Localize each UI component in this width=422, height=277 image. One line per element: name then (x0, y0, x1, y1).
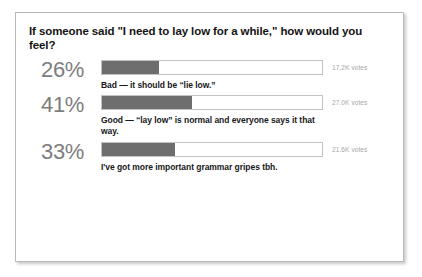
poll-option[interactable]: 26% 17.2K votes Bad — it should be “lie … (29, 60, 390, 91)
poll-option[interactable]: 41% 27.0K votes Good — “lay low” is norm… (29, 95, 390, 137)
option-percent: 26% (29, 60, 101, 80)
bar-row: 17.2K votes (101, 60, 390, 75)
bar-fill (102, 61, 159, 74)
option-label: Bad — it should be “lie low.” (101, 80, 333, 91)
option-body: 21.6K votes I've got more important gram… (101, 142, 390, 173)
option-label: I've got more important grammar gripes t… (101, 162, 333, 173)
poll-option[interactable]: 33% 21.6K votes I've got more important … (29, 142, 390, 173)
option-percent: 41% (29, 95, 101, 115)
vote-count: 21.6K votes (332, 146, 367, 153)
bar-track (101, 142, 323, 157)
option-body: 27.0K votes Good — “lay low” is normal a… (101, 95, 390, 137)
bar-track (101, 60, 323, 75)
bar-fill (102, 96, 192, 109)
option-label: Good — “lay low” is normal and everyone … (101, 115, 333, 137)
bar-row: 27.0K votes (101, 95, 390, 110)
poll-question: If someone said "I need to lay low for a… (29, 24, 385, 53)
bar-fill (102, 143, 175, 156)
bar-row: 21.6K votes (101, 142, 390, 157)
option-percent: 33% (29, 142, 101, 162)
bar-track (101, 95, 323, 110)
option-body: 17.2K votes Bad — it should be “lie low.… (101, 60, 390, 91)
vote-count: 27.0K votes (332, 99, 367, 106)
vote-count: 17.2K votes (332, 64, 367, 71)
poll-card: If someone said "I need to lay low for a… (15, 12, 404, 262)
